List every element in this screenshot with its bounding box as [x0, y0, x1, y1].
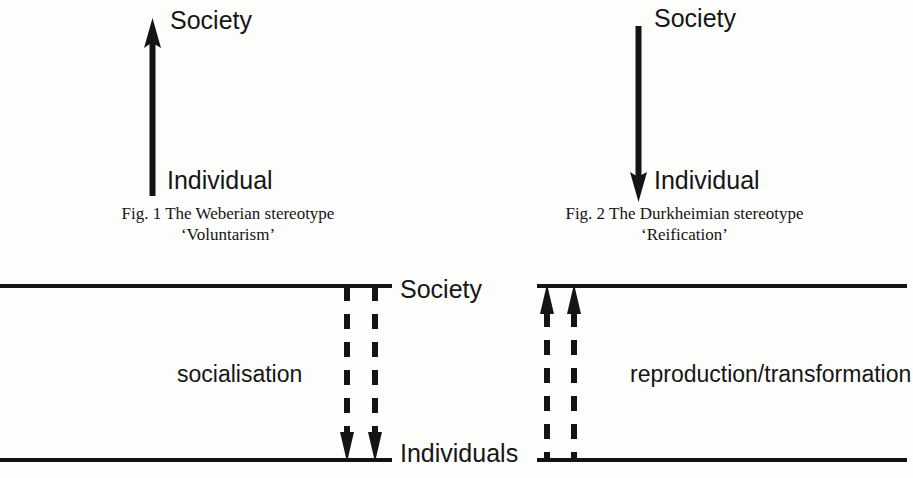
panel-left-process-label: socialisation	[177, 363, 302, 386]
dashed-arrow-up-icon	[540, 284, 554, 462]
figure-2-caption: Fig. 2 The Durkheimian stereotype ‘Reifi…	[456, 203, 913, 246]
center-society-label: Society	[400, 277, 482, 302]
arrow-up-icon	[138, 18, 168, 196]
panel-left: socialisation	[0, 260, 400, 478]
center-individuals-label: Individuals	[400, 441, 518, 466]
figure-1: Society Individual Fig. 1 The Weberian s…	[0, 0, 456, 250]
panel-left-individuals-line	[0, 458, 392, 462]
panel-right: reproduction/transformation	[537, 260, 913, 478]
figure-1-bottom-label: Individual	[167, 168, 273, 193]
panel-right-individuals-line	[537, 458, 907, 462]
figure-2-caption-line-1: Fig. 2 The Durkheimian stereotype	[456, 203, 913, 224]
panel-right-society-line	[537, 284, 907, 288]
arrow-down-icon	[624, 26, 654, 202]
dashed-arrow-down-icon	[368, 284, 382, 462]
figure-1-caption-line-2: ‘Voluntarism’	[0, 224, 456, 245]
dashed-arrow-up-icon	[567, 284, 581, 462]
figure-2-top-label: Society	[654, 6, 736, 31]
panel-right-process-label: reproduction/transformation	[630, 363, 911, 386]
figure-2: Society Individual Fig. 2 The Durkheimia…	[456, 0, 913, 250]
figure-2-bottom-label: Individual	[654, 168, 760, 193]
figure-1-caption-line-1: Fig. 1 The Weberian stereotype	[0, 203, 456, 224]
figure-1-caption: Fig. 1 The Weberian stereotype ‘Voluntar…	[0, 203, 456, 246]
figure-1-top-label: Society	[170, 8, 252, 33]
figure-2-caption-line-2: ‘Reification’	[456, 224, 913, 245]
dashed-arrow-down-icon	[340, 284, 354, 462]
diagram-page: Society Individual Fig. 1 The Weberian s…	[0, 0, 913, 478]
panel-left-society-line	[0, 284, 392, 288]
